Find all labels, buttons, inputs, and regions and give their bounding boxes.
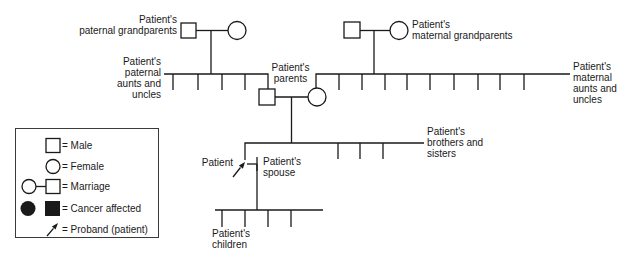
legend-item-marriage: = Marriage — [16, 176, 158, 196]
legend-male-label: = Male — [61, 140, 92, 151]
legend-marriage-label: = Marriage — [61, 181, 110, 192]
legend-item-cancer-affected: = Cancer affected — [16, 198, 158, 218]
cancer-affected-icon — [16, 198, 61, 219]
pedigree-chart: Patient's paternal grandparents Patient'… — [0, 0, 633, 260]
mother-female-symbol — [308, 88, 326, 106]
male-square-icon — [16, 135, 61, 156]
patient-spouse-union — [247, 157, 257, 210]
maternal-grandfather-male-symbol — [344, 22, 360, 38]
legend-cancer-affected-label: = Cancer affected — [61, 203, 141, 214]
spouse-label: Patient's spouse — [263, 156, 301, 178]
parents-symbols — [259, 88, 326, 143]
brothers-sisters-label: Patient's brothers and sisters — [427, 126, 483, 159]
proband-arrow-icon — [16, 219, 61, 240]
maternal-aunts-uncles-sibship — [316, 74, 570, 90]
father-male-symbol — [259, 89, 275, 105]
maternal-grandparents-label: Patient's maternal grandparents — [412, 19, 513, 41]
legend-item-female: = Female — [16, 156, 158, 176]
maternal-grandmother-female-symbol — [390, 22, 408, 40]
paternal-aunts-uncles-sibship — [164, 74, 268, 90]
patient-label: Patient — [202, 157, 233, 168]
legend-item-male: = Male — [16, 135, 158, 155]
legend-box: = Male = Female = Marriage = Cancer affe… — [15, 128, 159, 238]
children-sibship — [215, 210, 323, 227]
female-circle-icon — [16, 156, 61, 177]
legend-female-label: = Female — [61, 161, 104, 172]
paternal-grandparents-symbols — [181, 22, 246, 75]
proband-arrow-icon — [233, 162, 245, 177]
legend-proband-label: = Proband (patient) — [61, 224, 148, 235]
paternal-grandfather-male-symbol — [181, 23, 196, 38]
children-label: Patient's children — [212, 228, 250, 250]
maternal-grandparents-symbols — [344, 22, 408, 75]
paternal-aunts-uncles-label: Patient's paternal aunts and uncles — [117, 56, 161, 100]
paternal-grandparents-label: Patient's paternal grandparents — [79, 14, 177, 36]
marriage-icon — [16, 176, 61, 197]
paternal-grandmother-female-symbol — [228, 22, 246, 40]
legend-item-proband: = Proband (patient) — [16, 219, 158, 239]
parents-label: Patient's parents — [262, 62, 319, 84]
maternal-aunts-uncles-label: Patient's maternal aunts and uncles — [573, 61, 617, 105]
